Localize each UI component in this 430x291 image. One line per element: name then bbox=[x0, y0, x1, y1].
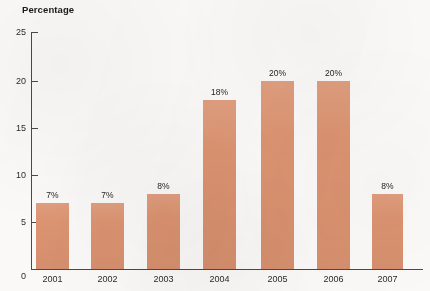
y-tick-label-20: 20 bbox=[2, 76, 26, 86]
x-tick-label-2004: 2004 bbox=[197, 274, 242, 284]
bar-2007[interactable] bbox=[372, 194, 403, 269]
bar-chart: Percentage 25 20 15 10 5 0 7% 7% 8% 18% … bbox=[0, 0, 430, 291]
y-tick-label-10: 10 bbox=[2, 170, 26, 180]
x-tick-label-2001: 2001 bbox=[30, 274, 75, 284]
y-tick-label-15: 15 bbox=[2, 123, 26, 133]
y-tick-mark-15 bbox=[32, 128, 38, 129]
bar-label-2006: 20% bbox=[313, 68, 354, 78]
x-tick-label-2007: 2007 bbox=[365, 274, 410, 284]
bar-2004[interactable] bbox=[203, 100, 236, 269]
x-tick-label-2005: 2005 bbox=[255, 274, 300, 284]
y-tick-mark-20 bbox=[32, 81, 38, 82]
bar-label-2003: 8% bbox=[143, 181, 184, 191]
bar-2003[interactable] bbox=[147, 194, 180, 269]
x-tick-label-2003: 2003 bbox=[141, 274, 186, 284]
bar-label-2004: 18% bbox=[199, 87, 240, 97]
y-tick-label-25: 25 bbox=[2, 27, 26, 37]
x-tick-label-2006: 2006 bbox=[311, 274, 356, 284]
x-axis-line bbox=[31, 269, 423, 270]
bar-label-2001: 7% bbox=[32, 190, 73, 200]
x-tick-label-2002: 2002 bbox=[85, 274, 130, 284]
bar-2005[interactable] bbox=[261, 81, 294, 269]
y-axis-line bbox=[31, 32, 32, 269]
bar-2006[interactable] bbox=[317, 81, 350, 269]
bar-label-2007: 8% bbox=[367, 181, 408, 191]
y-tick-mark-10 bbox=[32, 175, 38, 176]
y-tick-label-5: 5 bbox=[2, 217, 26, 227]
bar-2002[interactable] bbox=[91, 203, 124, 269]
plot-area: 25 20 15 10 5 0 7% 7% 8% 18% 20% 20% 8% … bbox=[0, 0, 430, 291]
bar-label-2005: 20% bbox=[257, 68, 298, 78]
y-tick-mark-25 bbox=[32, 32, 38, 33]
y-tick-label-0: 0 bbox=[2, 271, 26, 281]
bar-2001[interactable] bbox=[36, 203, 69, 269]
bar-label-2002: 7% bbox=[87, 190, 128, 200]
